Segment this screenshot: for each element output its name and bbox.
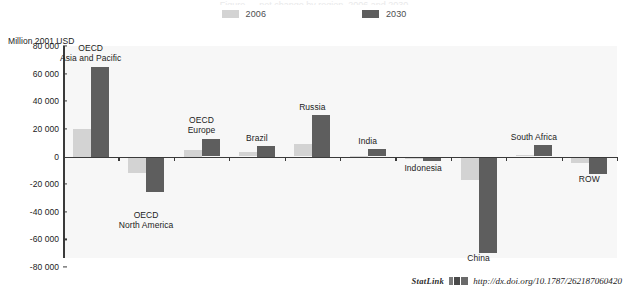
- y-axis-tick-label: -20 000: [30, 179, 59, 189]
- legend-label-2006: 2006: [246, 9, 266, 19]
- x-axis-tick-mark: [340, 157, 341, 161]
- y-axis-tick-mark: [63, 266, 67, 267]
- bar-russia-2006[interactable]: [294, 144, 312, 156]
- bar-oecd-europe-2006[interactable]: [184, 150, 202, 157]
- y-axis-tick-mark: [63, 73, 67, 74]
- category-label-line: Russia: [299, 102, 325, 112]
- bar-oecd-north-america-2006[interactable]: [128, 157, 146, 174]
- category-label-line: India: [358, 136, 377, 146]
- category-label-line: Brazil: [246, 133, 268, 143]
- bar-brazil-2030[interactable]: [257, 146, 275, 156]
- bar-south-africa-2030[interactable]: [534, 145, 552, 156]
- bar-china-2006[interactable]: [461, 157, 479, 180]
- bar-russia-2030[interactable]: [312, 115, 330, 156]
- category-label-oecd-europe: OECDEurope: [188, 115, 216, 135]
- category-label-line: Indonesia: [404, 163, 441, 173]
- y-axis-tick-label: 0: [54, 152, 59, 162]
- y-axis-tick-label: 60 000: [33, 69, 59, 79]
- category-label-line: China: [467, 253, 489, 263]
- bar-row-2030[interactable]: [589, 157, 607, 175]
- category-label-indonesia: Indonesia: [404, 163, 441, 173]
- legend-swatch-2030: [362, 10, 379, 18]
- category-label-line: OECD: [60, 43, 121, 53]
- y-axis-tick-label: -80 000: [30, 262, 59, 272]
- category-label-line: North America: [119, 220, 174, 230]
- category-label-line: OECD: [119, 210, 174, 220]
- y-axis-tick-mark: [63, 101, 67, 102]
- chart-title-partial: Figure — net change by region, 2006 and …: [0, 0, 628, 5]
- y-axis-tick-label: -60 000: [30, 234, 59, 244]
- x-axis-tick-mark: [174, 157, 175, 161]
- y-axis-tick-label: 40 000: [33, 96, 59, 106]
- x-axis-tick-mark: [285, 157, 286, 161]
- x-axis-tick-mark: [395, 157, 396, 161]
- statlink-url[interactable]: http://dx.doi.org/10.1787/262187060420: [473, 276, 622, 286]
- category-label-line: Asia and Pacific: [60, 53, 121, 63]
- bar-oecd-north-america-2030[interactable]: [146, 157, 164, 193]
- category-label-brazil: Brazil: [246, 133, 268, 143]
- category-label-oecd-north-america: OECDNorth America: [119, 210, 174, 230]
- statlink-label: StatLink: [412, 276, 445, 286]
- legend-item-2030[interactable]: 2030: [362, 9, 406, 19]
- y-axis-tick-label: 80 000: [33, 41, 59, 51]
- y-axis-tick-mark: [63, 184, 67, 185]
- bar-india-2030[interactable]: [368, 149, 386, 157]
- bar-oecd-europe-2030[interactable]: [202, 139, 220, 157]
- legend-item-2006[interactable]: 2006: [222, 9, 266, 19]
- x-axis-tick-mark: [506, 157, 507, 161]
- category-label-india: India: [358, 136, 377, 146]
- legend-label-2030: 2030: [386, 9, 406, 19]
- bar-china-2030[interactable]: [479, 157, 497, 254]
- category-label-line: South Africa: [511, 132, 557, 142]
- statlink-footer[interactable]: StatLink http://dx.doi.org/10.1787/26218…: [412, 276, 622, 286]
- category-label-oecd-asia-and-pacific: OECDAsia and Pacific: [60, 43, 121, 63]
- chart-legend: 2006 2030: [0, 7, 628, 21]
- category-label-china: China: [467, 253, 489, 263]
- y-axis-tick-labels: 80 00060 00040 00020 0000-20 000-40 000-…: [0, 0, 59, 291]
- x-axis-tick-mark: [562, 157, 563, 161]
- category-label-russia: Russia: [299, 102, 325, 112]
- category-label-line: Europe: [188, 125, 216, 135]
- x-axis-tick-mark: [118, 157, 119, 161]
- y-axis-tick-mark: [63, 211, 67, 212]
- y-axis-tick-mark: [63, 128, 67, 129]
- bar-oecd-asia-and-pacific-2030[interactable]: [91, 67, 109, 157]
- category-label-row: ROW: [579, 174, 600, 184]
- x-axis-tick-mark: [451, 157, 452, 161]
- y-axis-tick-label: -40 000: [30, 207, 59, 217]
- y-axis-tick-mark: [63, 239, 67, 240]
- x-axis-tick-mark: [229, 157, 230, 161]
- category-label-line: OECD: [188, 115, 216, 125]
- legend-swatch-2006: [222, 10, 239, 18]
- category-label-line: ROW: [579, 174, 600, 184]
- chart-page: Figure — net change by region, 2006 and …: [0, 0, 628, 291]
- category-label-south-africa: South Africa: [511, 132, 557, 142]
- statlink-barcode-icon: [449, 277, 468, 285]
- bar-oecd-asia-and-pacific-2006[interactable]: [73, 129, 91, 157]
- y-axis-tick-label: 20 000: [33, 124, 59, 134]
- x-axis-tick-mark: [617, 157, 618, 161]
